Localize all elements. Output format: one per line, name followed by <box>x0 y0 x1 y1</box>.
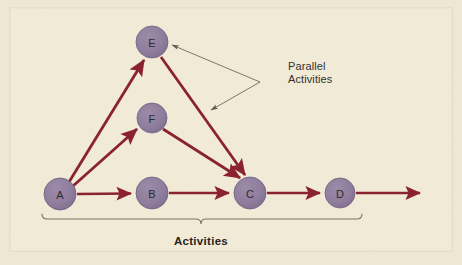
diagram-canvas-container: A B C D E F Parallel Activities <box>0 0 462 265</box>
node-label-A: A <box>56 189 64 201</box>
edge-a-to-b <box>77 194 131 195</box>
node-label-F: F <box>149 113 156 125</box>
bracket-label: Activities <box>174 235 228 247</box>
node-D[interactable]: D <box>325 178 355 208</box>
node-A[interactable]: A <box>44 178 76 210</box>
node-label-B: B <box>148 188 156 200</box>
node-B[interactable]: B <box>136 177 168 209</box>
node-E[interactable]: E <box>136 26 168 58</box>
callout-line-2: Activities <box>288 73 333 85</box>
paper-texture-overlay <box>10 8 452 251</box>
node-label-E: E <box>148 37 156 49</box>
node-C[interactable]: C <box>234 177 266 209</box>
node-label-D: D <box>336 188 344 200</box>
node-label-C: C <box>246 188 254 200</box>
node-F[interactable]: F <box>137 103 167 133</box>
network-diagram: A B C D E F Parallel Activities <box>0 0 462 265</box>
callout-line-1: Parallel <box>288 60 326 72</box>
